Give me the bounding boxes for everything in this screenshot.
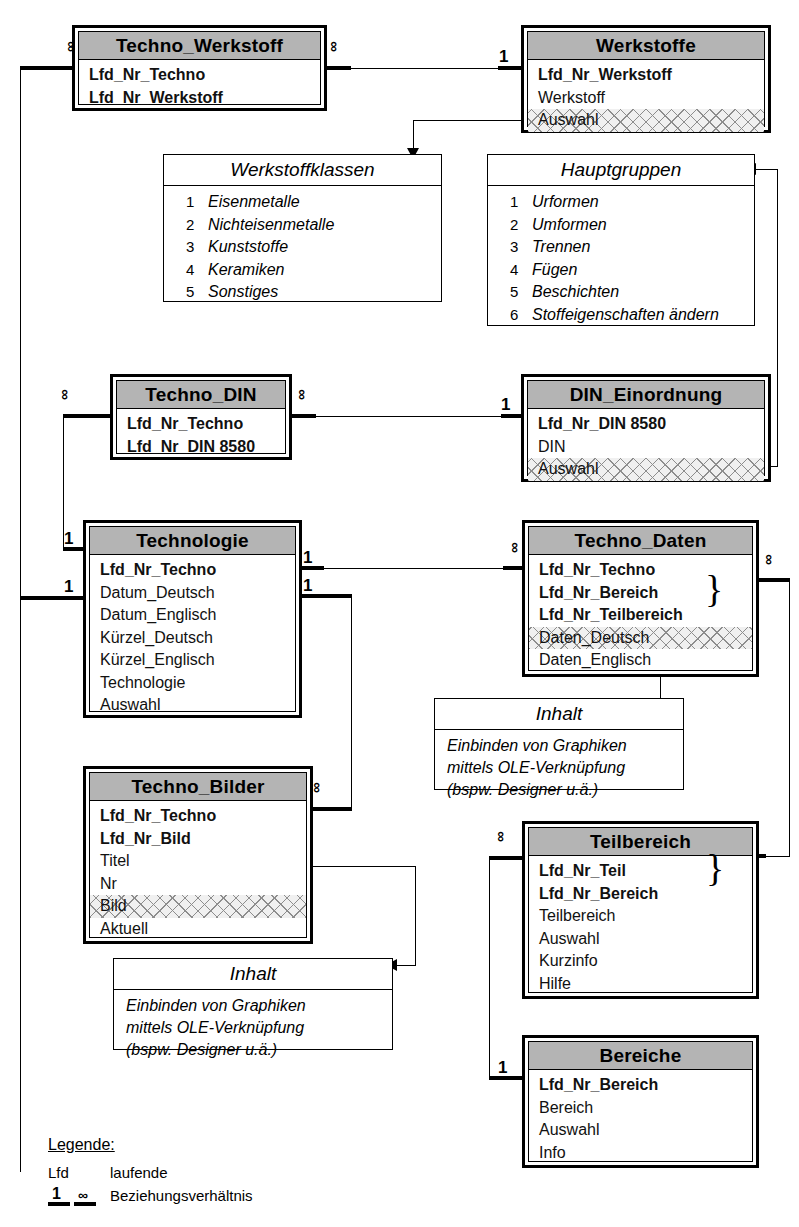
field-row: Technologie (100, 672, 295, 695)
lookup-werkstoffklassen[interactable]: Werkstoffklassen 1Eisenmetalle 2Nichteis… (163, 154, 442, 302)
legend-title: Legende: (48, 1136, 348, 1154)
connector-stub (501, 414, 523, 418)
connector-stub (498, 66, 522, 70)
cardinality-many: ∞ (293, 389, 308, 400)
lookup-row-label: Urformen (532, 193, 599, 210)
entity-techno-din[interactable]: Techno_DIN Lfd_Nr_Techno Lfd_Nr_DIN 8580 (110, 374, 292, 460)
connector-line (777, 169, 778, 467)
lookup-row: 2Umformen (488, 214, 754, 237)
entity-title: Techno_Daten (529, 527, 752, 555)
entity-inner: Technologie Lfd_Nr_Techno Datum_Deutsch … (89, 526, 296, 712)
entity-bereiche[interactable]: Bereiche Lfd_Nr_Bereich Bereich Auswahl … (522, 1035, 759, 1168)
lookup-row-label: Keramiken (208, 261, 284, 278)
field-row: Daten_Englisch (539, 649, 752, 672)
lookup-row-label: Umformen (532, 216, 607, 233)
field-row: Auswahl (100, 694, 295, 717)
entity-fields: Lfd_Nr_Techno Datum_Deutsch Datum_Englis… (90, 555, 295, 721)
lookup-row: 5Sonstiges (164, 281, 441, 304)
lookup-row-label: Eisenmetalle (208, 193, 300, 210)
field-row: Lfd_Nr_Werkstoff (538, 64, 764, 87)
legend-bar-one (48, 1202, 70, 1206)
entity-fields: Lfd_Nr_Bereich Bereich Auswahl Info (529, 1070, 752, 1168)
entity-fields: Lfd_Nr_Techno Lfd_Nr_Werkstoff (79, 60, 320, 113)
legend-cardinality-many: ∞ (78, 1187, 88, 1203)
lookup-row-number: 1 (186, 191, 208, 214)
legend-row-relation: 1 ∞ Beziehungsverhältnis (48, 1185, 348, 1208)
lookup-rows: 1Eisenmetalle 2Nichteisenmetalle 3Kunsts… (164, 186, 441, 308)
entity-werkstoffe[interactable]: Werkstoffe Lfd_Nr_Werkstoff Werkstoff Au… (521, 25, 771, 133)
field-row: Lfd_Nr_Techno (89, 64, 320, 87)
lookup-row-number: 3 (186, 236, 208, 259)
entity-inner: Techno_DIN Lfd_Nr_Techno Lfd_Nr_DIN 8580 (116, 380, 286, 454)
lookup-row: 4Fügen (488, 259, 754, 282)
field-row: Kürzel_Englisch (100, 649, 295, 672)
note-inhalt-daten[interactable]: Inhalt Einbinden von Graphiken mittels O… (434, 698, 684, 790)
entity-techno-werkstoff[interactable]: Techno_Werkstoff Lfd_Nr_Techno Lfd_Nr_We… (72, 25, 327, 111)
connector-stub (489, 856, 525, 860)
note-line: Einbinden von Graphiken (114, 995, 392, 1017)
field-row-hatched: Auswahl (528, 109, 764, 132)
cardinality-one: 1 (501, 396, 510, 413)
field-row: Aktuell (100, 918, 306, 941)
connector-stub (20, 66, 72, 70)
field-row: Bereich (539, 1097, 752, 1120)
lookup-title: Hauptgruppen (488, 155, 754, 186)
entity-title: Techno_Bilder (90, 773, 306, 801)
field-row: Lfd_Nr_Techno (127, 413, 285, 436)
lookup-row-number: 3 (510, 236, 532, 259)
connector-line (318, 568, 516, 569)
entity-title: Bereiche (529, 1042, 752, 1070)
lookup-hauptgruppen[interactable]: Hauptgruppen 1Urformen 2Umformen 3Trenne… (487, 154, 755, 326)
legend: Legende: Lfd laufende 1 ∞ Beziehungsverh… (48, 1136, 348, 1208)
legend-bar-many (74, 1202, 96, 1206)
entity-techno-daten[interactable]: Techno_Daten Lfd_Nr_Techno Lfd_Nr_Bereic… (522, 520, 759, 677)
lookup-row-label: Trennen (532, 238, 590, 255)
cardinality-many: ∞ (325, 41, 340, 52)
entity-title: DIN_Einordnung (528, 381, 764, 409)
lookup-row-label: Sonstiges (208, 283, 278, 300)
field-row: Hilfe (539, 973, 752, 996)
entity-title: Techno_Werkstoff (79, 32, 320, 60)
lookup-row-label: Nichteisenmetalle (208, 216, 334, 233)
lookup-title: Werkstoffklassen (164, 155, 441, 186)
lookup-row: 1Eisenmetalle (164, 191, 441, 214)
connector-line (489, 856, 490, 1078)
lookup-row: 5Beschichten (488, 281, 754, 304)
entity-fields: Lfd_Nr_Techno Lfd_Nr_DIN 8580 (117, 409, 285, 462)
lookup-row: 1Urformen (488, 191, 754, 214)
field-row: Lfd_Nr_Werkstoff (89, 87, 320, 110)
composite-key-brace: } (706, 849, 724, 887)
lookup-row-number: 2 (510, 214, 532, 237)
cardinality-many: ∞ (56, 389, 71, 400)
field-row: Lfd_Nr_Bild (100, 828, 306, 851)
connector-line (413, 120, 526, 121)
entity-fields: Lfd_Nr_Werkstoff Werkstoff Auswahl (528, 60, 764, 136)
cardinality-one: 1 (303, 577, 312, 594)
entity-technologie[interactable]: Technologie Lfd_Nr_Techno Datum_Deutsch … (83, 520, 302, 718)
entity-inner: Bereiche Lfd_Nr_Bereich Bereich Auswahl … (528, 1041, 753, 1162)
note-line: (bspw. Designer u.ä.) (435, 779, 683, 801)
lookup-row-number: 5 (510, 281, 532, 304)
lookup-row-number: 4 (186, 259, 208, 282)
entity-techno-bilder[interactable]: Techno_Bilder Lfd_Nr_Techno Lfd_Nr_Bild … (83, 766, 313, 944)
composite-key-brace: } (705, 570, 723, 608)
connector-line (351, 594, 352, 809)
note-inhalt-bilder[interactable]: Inhalt Einbinden von Graphiken mittels O… (113, 958, 393, 1050)
legend-text-relation: Beziehungsverhältnis (110, 1187, 253, 1204)
cardinality-one: 1 (499, 48, 508, 65)
connector-stub (758, 578, 790, 582)
entity-din-einordnung[interactable]: DIN_Einordnung Lfd_Nr_DIN 8580 DIN Auswa… (521, 374, 771, 482)
field-row-hatched: Daten_Deutsch (529, 627, 752, 650)
field-row: Kurzinfo (539, 950, 752, 973)
connector-line (396, 965, 416, 966)
field-row: Lfd_Nr_Techno (100, 805, 306, 828)
field-row: Auswahl (539, 928, 752, 951)
entity-title: Werkstoffe (528, 32, 764, 60)
entity-inner: Techno_Bilder Lfd_Nr_Techno Lfd_Nr_Bild … (89, 772, 307, 938)
note-line: mittels OLE-Verknüpfung (114, 1017, 392, 1039)
entity-inner: Techno_Werkstoff Lfd_Nr_Techno Lfd_Nr_We… (78, 31, 321, 105)
lookup-row-label: Kunststoffe (208, 238, 288, 255)
lookup-row-label: Stoffeigenschaften ändern (532, 306, 719, 323)
cardinality-one: 1 (498, 1059, 507, 1076)
entity-fields: Lfd_Nr_Techno Lfd_Nr_Bild Titel Nr Bild … (90, 801, 306, 944)
